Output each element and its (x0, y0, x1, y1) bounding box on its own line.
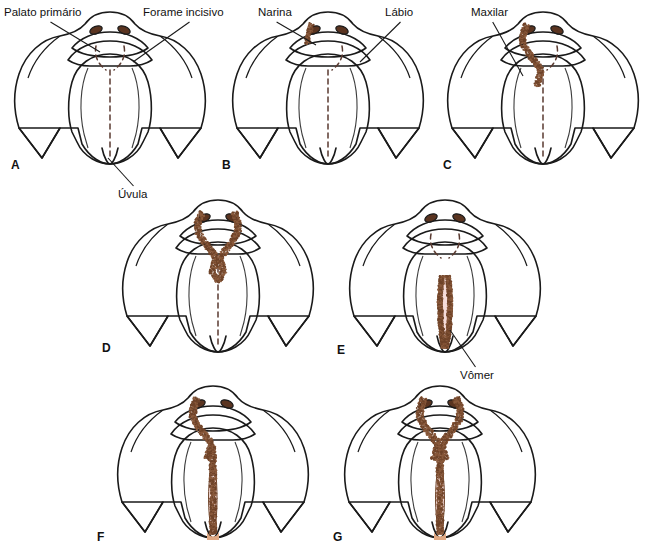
annotation-label-palato-primario: Palato primário (4, 6, 81, 18)
leader-lines (0, 0, 653, 553)
figure-canvas: ABCDEFGPalato primárioForame incisivoÚvu… (0, 0, 653, 553)
annotation-label-labio: Lábio (385, 6, 413, 18)
annotation-label-narina: Narina (258, 6, 292, 18)
annotation-label-maxilar: Maxilar (471, 6, 508, 18)
annotation-label-forame-incisivo: Forame incisivo (143, 6, 224, 18)
annotation-label-vomer: Vômer (460, 369, 494, 381)
annotation-label-uvula: Úvula (118, 188, 147, 200)
